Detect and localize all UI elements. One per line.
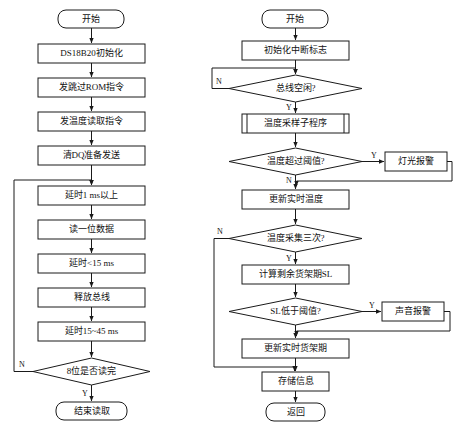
node-update-realtime-shelf-life-label: 更新实时货架期 — [264, 342, 327, 353]
node-left-start-label: 开始 — [82, 13, 100, 24]
edge-label-sl-low-y: Y — [369, 301, 375, 310]
node-send-temp-read-cmd: 发温度读取指令 — [38, 112, 145, 131]
node-update-realtime-temp: 更新实时温度 — [242, 190, 349, 209]
node-delay-15-45ms: 延时15~45 ms — [38, 322, 145, 341]
node-delay-lt-15ms: 延时<15 ms — [38, 254, 145, 273]
node-light-alarm-label: 灯光报警 — [398, 155, 434, 166]
node-release-bus-label: 释放总线 — [74, 291, 110, 302]
node-sl-below-threshold: SL低于阈值? — [229, 298, 362, 325]
right-flowchart: 开始 初始化中断标志 总线空闲? 温度采样子程序 温 — [212, 10, 452, 421]
node-left-start: 开始 — [58, 10, 124, 28]
node-return: 返回 — [266, 403, 325, 421]
flowchart-canvas: 开始 DS18B20初始化 发跳过ROM指令 发温度读取指令 清DQ准备发送 — [0, 0, 457, 431]
node-right-start-label: 开始 — [286, 13, 304, 24]
edge-label-sample-three-n: N — [217, 227, 223, 236]
node-read-one-bit: 读一位数据 — [38, 220, 145, 239]
node-light-alarm: 灯光报警 — [385, 152, 447, 171]
node-temp-over-threshold: 温度超过阈值? — [229, 148, 362, 175]
node-delay-1ms: 延时1 ms以上 — [38, 186, 145, 205]
node-sound-alarm: 声音报警 — [382, 302, 444, 321]
node-end-read: 结束读取 — [56, 402, 127, 420]
connector-loop-back-left — [14, 180, 92, 372]
flowchart-svg: 开始 DS18B20初始化 发跳过ROM指令 发温度读取指令 清DQ准备发送 — [0, 0, 457, 431]
node-init-interrupt-flag-label: 初始化中断标志 — [264, 44, 327, 55]
node-clear-dq-label: 清DQ准备发送 — [63, 149, 121, 160]
node-calc-remaining-shelf-life-label: 计算剩余货架期SL — [259, 268, 333, 279]
node-temp-sampled-three-times-label: 温度采集三次? — [267, 232, 325, 243]
node-temp-over-threshold-label: 温度超过阈值? — [267, 155, 325, 166]
node-update-realtime-shelf-life: 更新实时货架期 — [242, 339, 349, 358]
node-send-temp-read-cmd-label: 发温度读取指令 — [60, 115, 123, 126]
node-read-one-bit-label: 读一位数据 — [69, 223, 114, 234]
node-init-interrupt-flag: 初始化中断标志 — [242, 41, 349, 60]
node-clear-dq: 清DQ准备发送 — [38, 146, 145, 165]
node-bus-idle: 总线空闲? — [229, 75, 362, 102]
node-skip-rom-cmd: 发跳过ROM指令 — [38, 78, 145, 97]
node-store-info: 存储信息 — [262, 372, 329, 391]
node-right-start: 开始 — [262, 10, 328, 28]
node-end-read-label: 结束读取 — [74, 405, 110, 416]
node-delay-lt-15ms-label: 延时<15 ms — [69, 257, 114, 268]
node-delay-15-45ms-label: 延时15~45 ms — [65, 325, 119, 336]
edge-label-left-exit-y: Y — [82, 389, 88, 398]
edge-label-temp-over-n: N — [286, 176, 292, 185]
edge-label-bus-idle-y: Y — [286, 103, 292, 112]
node-calc-remaining-shelf-life: 计算剩余货架期SL — [242, 265, 349, 284]
edge-label-bus-idle-n: N — [216, 77, 222, 86]
node-eight-bits-done-label: 8位是否读完 — [67, 365, 117, 376]
node-release-bus: 释放总线 — [38, 288, 145, 307]
node-ds18b20-init: DS18B20初始化 — [38, 44, 145, 63]
node-sl-below-threshold-label: SL低于阈值? — [270, 305, 321, 316]
node-temp-sampling-subroutine-label: 温度采样子程序 — [264, 117, 327, 128]
left-flowchart: 开始 DS18B20初始化 发跳过ROM指令 发温度读取指令 清DQ准备发送 — [14, 10, 150, 420]
edge-label-left-loop-n: N — [19, 360, 25, 369]
node-eight-bits-done: 8位是否读完 — [33, 358, 150, 385]
node-update-realtime-temp-label: 更新实时温度 — [269, 193, 323, 204]
node-temp-sampling-subroutine: 温度采样子程序 — [242, 114, 349, 133]
node-temp-sampled-three-times: 温度采集三次? — [229, 225, 362, 252]
edge-label-temp-over-y: Y — [371, 151, 377, 160]
node-return-label: 返回 — [287, 406, 305, 417]
node-ds18b20-init-label: DS18B20初始化 — [60, 47, 123, 58]
node-store-info-label: 存储信息 — [278, 375, 314, 386]
node-skip-rom-cmd-label: 发跳过ROM指令 — [59, 81, 125, 92]
node-bus-idle-label: 总线空闲? — [276, 82, 316, 93]
node-delay-1ms-label: 延时1 ms以上 — [65, 189, 118, 200]
node-sound-alarm-label: 声音报警 — [395, 305, 431, 316]
edge-label-sample-three-y: Y — [286, 254, 292, 263]
